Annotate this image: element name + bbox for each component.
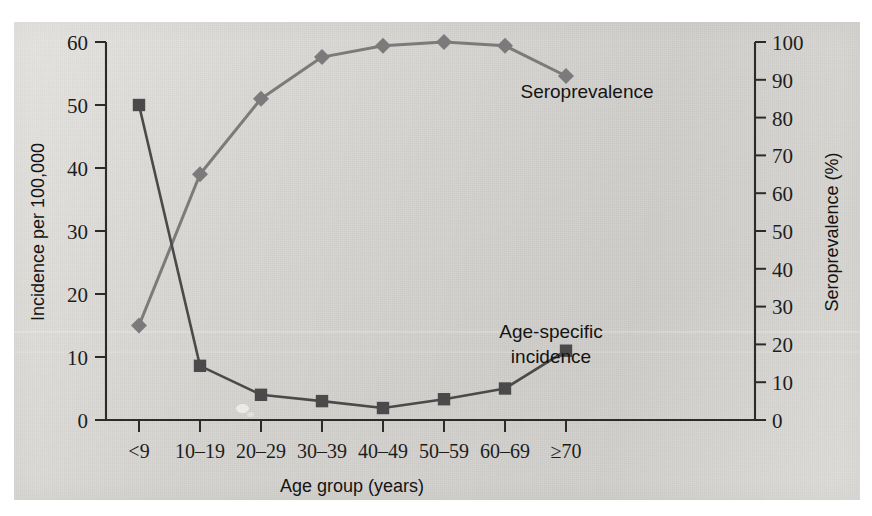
incidence-series-label-line2: incidence xyxy=(511,346,591,367)
bottom-axis: <9 10–19 20–29 30–39 40–49 50–59 60–69 ≥… xyxy=(106,420,755,496)
right-tick-label-0: 0 xyxy=(772,409,783,433)
data-point-marker xyxy=(497,38,513,54)
right-tick-label-10: 10 xyxy=(772,371,793,395)
right-tick-label-60: 60 xyxy=(772,182,793,206)
right-tick-label-40: 40 xyxy=(772,258,793,282)
left-tick-label-20: 20 xyxy=(67,283,88,307)
x-tick-label-2: 20–29 xyxy=(236,440,286,462)
seroprevalence-series-label: Seroprevalence xyxy=(520,81,653,102)
right-tick-label-20: 20 xyxy=(772,333,793,357)
right-tick-label-100: 100 xyxy=(772,31,804,55)
x-tick-label-6: 60–69 xyxy=(480,440,530,462)
data-point-marker xyxy=(377,402,389,414)
data-point-marker xyxy=(436,34,452,50)
data-point-marker xyxy=(255,389,267,401)
x-tick-label-7: ≥70 xyxy=(551,440,582,462)
series-line xyxy=(139,42,566,326)
left-tick-label-60: 60 xyxy=(67,31,88,55)
left-tick-label-0: 0 xyxy=(78,409,89,433)
right-tick-label-70: 70 xyxy=(772,144,793,168)
right-axis-title: Seroprevalence (%) xyxy=(822,152,842,311)
left-tick-label-50: 50 xyxy=(67,94,88,118)
left-axis: 60 50 40 30 20 10 0 Incidence per 100,00… xyxy=(28,31,106,433)
series-seroprevalence xyxy=(131,34,574,334)
data-point-marker xyxy=(375,38,391,54)
left-axis-title: Incidence per 100,000 xyxy=(28,143,48,321)
right-tick-label-90: 90 xyxy=(772,69,793,93)
left-tick-label-30: 30 xyxy=(67,220,88,244)
series-incidence xyxy=(133,99,572,414)
data-point-marker xyxy=(131,318,147,334)
figure-container: 60 50 40 30 20 10 0 Incidence per 100,00… xyxy=(0,0,872,516)
series-layer xyxy=(131,34,574,414)
right-axis: 100 90 80 70 60 50 40 30 20 10 0 Seropre… xyxy=(755,31,842,433)
data-point-marker xyxy=(194,360,206,372)
x-tick-label-0: <9 xyxy=(128,440,149,462)
x-tick-label-1: 10–19 xyxy=(175,440,225,462)
right-tick-label-30: 30 xyxy=(772,295,793,319)
data-point-marker xyxy=(499,382,511,394)
data-point-marker xyxy=(133,99,145,111)
incidence-series-label-line1: Age-specific xyxy=(499,321,603,342)
right-tick-label-50: 50 xyxy=(772,220,793,244)
data-point-marker xyxy=(316,395,328,407)
x-tick-label-3: 30–39 xyxy=(297,440,347,462)
chart-svg: 60 50 40 30 20 10 0 Incidence per 100,00… xyxy=(0,0,872,516)
left-tick-label-10: 10 xyxy=(67,346,88,370)
right-tick-label-80: 80 xyxy=(772,107,793,131)
left-tick-label-40: 40 xyxy=(67,157,88,181)
data-point-marker xyxy=(438,393,450,405)
x-axis-title: Age group (years) xyxy=(280,476,424,496)
x-tick-label-5: 50–59 xyxy=(419,440,469,462)
x-tick-label-4: 40–49 xyxy=(358,440,408,462)
